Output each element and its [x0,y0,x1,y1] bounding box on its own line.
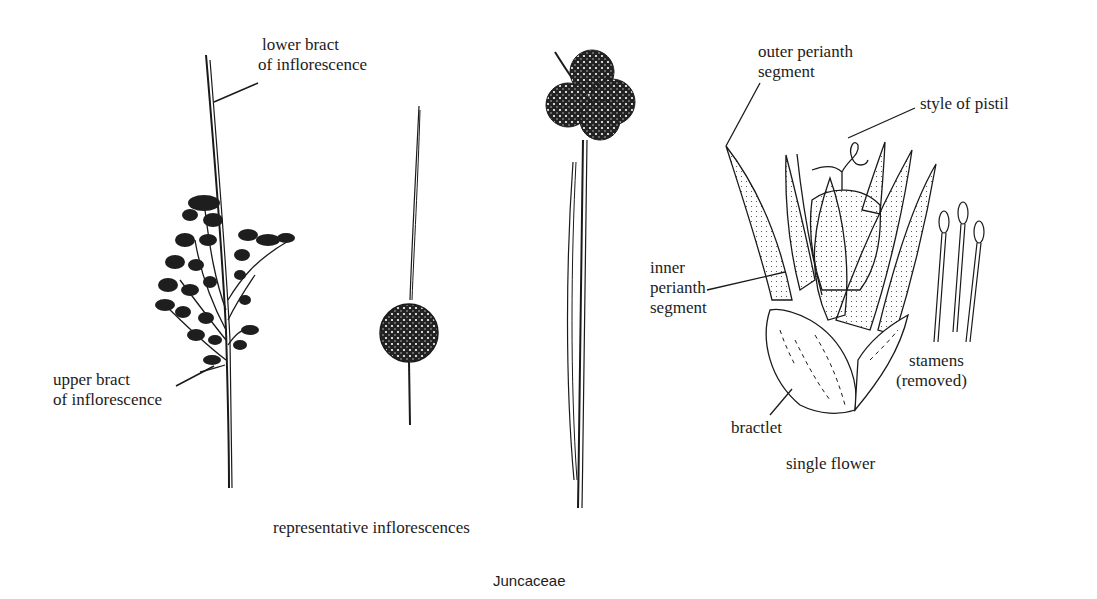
stamens-drawing [934,202,984,342]
label-outer-perianth-segment: outer perianth segment [758,42,853,82]
label-upper-bract: upper bract of inflorescence [53,370,162,410]
caption-representative-inflorescences: representative inflorescences [273,518,470,538]
label-stamens: stamens (removed) [906,351,967,391]
branched-panicle-drawing [155,55,295,488]
label-bractlet: bractlet [731,418,782,438]
label-style-of-pistil: style of pistil [920,94,1009,114]
caption-single-flower: single flower [786,454,875,474]
label-inner-perianth-segment: inner perianth segment [650,258,707,318]
label-lower-bract: lower bract of inflorescence [262,35,367,75]
illustration-canvas [0,0,1097,599]
figure-title: Juncaceae [493,572,566,589]
globose-head-drawing [380,106,438,425]
clustered-heads-drawing [546,50,635,508]
flower-drawing [707,83,936,415]
